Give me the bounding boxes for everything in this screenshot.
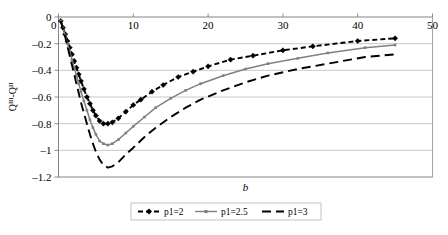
series-marker-1-33	[394, 44, 397, 47]
legend-label-2: p1=3	[288, 207, 308, 217]
x-tick-label-3: 30	[277, 19, 289, 31]
x-axis-title: b	[243, 181, 249, 193]
series-marker-1-23	[154, 106, 157, 109]
series-marker-1-26	[199, 82, 202, 85]
x-tick-label-5: 50	[427, 19, 439, 31]
x-tick-label-1: 10	[128, 19, 140, 31]
chart-legend: p1=2p1=2.5p1=3	[131, 203, 321, 220]
y-axis-title: QIII-QII	[7, 83, 19, 112]
chart-svg: 01020304050 0–0.2–0.4–0.6–0.8–1–1.2 QIII…	[0, 0, 448, 235]
series-marker-1-14	[95, 133, 98, 136]
series-marker-1-17	[107, 144, 110, 147]
x-tick-label-4: 40	[352, 19, 364, 31]
x-axis-title-text: b	[243, 181, 249, 193]
series-marker-1-13	[92, 126, 95, 129]
legend-label-0: p1=2	[164, 207, 184, 217]
series-marker-1-24	[169, 97, 172, 100]
series-marker-1-18	[111, 142, 114, 145]
series-marker-1-20	[125, 132, 128, 135]
series-marker-1-8	[77, 82, 80, 85]
y-axis-title-text: QIII-QII	[7, 83, 19, 112]
series-marker-1-31	[326, 52, 329, 55]
y-tick-label-1: –0.2	[31, 38, 51, 50]
x-tick-label-2: 20	[203, 19, 215, 31]
series-marker-1-30	[297, 57, 300, 60]
series-marker-1-29	[267, 62, 270, 65]
series-marker-1-9	[80, 90, 83, 93]
series-marker-1-32	[364, 46, 367, 49]
series-marker-1-15	[98, 140, 101, 143]
series-marker-1-10	[83, 100, 86, 103]
chart-container: 01020304050 0–0.2–0.4–0.6–0.8–1–1.2 QIII…	[0, 0, 448, 235]
legend-label-1: p1=2.5	[221, 207, 248, 217]
y-tick-label-2: –0.4	[31, 64, 52, 76]
x-tick-label-0: 0	[51, 19, 57, 31]
series-marker-1-21	[132, 125, 135, 128]
legend-marker-1	[204, 210, 207, 213]
series-marker-1-5	[71, 58, 74, 61]
y-axis-ticks: 0–0.2–0.4–0.6–0.8–1–1.2	[31, 11, 58, 183]
series-marker-1-22	[143, 116, 146, 119]
series-marker-1-27	[222, 74, 225, 77]
series-marker-1-12	[89, 118, 92, 121]
series-marker-1-25	[184, 89, 187, 92]
y-tick-label-6: –1.2	[31, 171, 51, 183]
series-marker-1-16	[102, 142, 105, 145]
series-marker-1-11	[86, 109, 89, 112]
y-tick-label-3: –0.6	[31, 91, 52, 103]
series-marker-1-19	[117, 138, 120, 141]
y-tick-label-0: 0	[46, 11, 52, 23]
y-tick-label-4: –0.8	[31, 118, 52, 130]
series-marker-1-28	[244, 68, 247, 71]
y-tick-label-5: –1	[40, 144, 52, 156]
